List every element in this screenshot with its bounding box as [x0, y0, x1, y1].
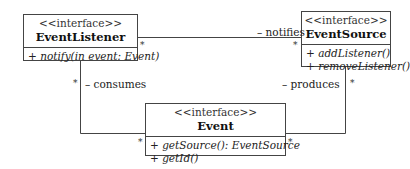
- role-label-produces: – produces: [282, 78, 340, 90]
- class-event: <<interface>> Event + getSource(): Event…: [145, 103, 286, 156]
- multiplicity-event-produces: *: [288, 137, 293, 147]
- multiplicity-event-consumes: *: [138, 137, 143, 147]
- multiplicity-source-notifies: *: [293, 40, 298, 50]
- multiplicity-listener-consumes: *: [73, 78, 78, 88]
- uml-diagram: <<interface>> EventListener + notify(in …: [0, 0, 410, 169]
- stereotype-label: <<interface>>: [26, 17, 135, 30]
- operation: + removeListener(): [306, 60, 386, 73]
- operations-list: + notify(in event: Event): [24, 48, 137, 65]
- operations-list: + getSource(): EventSource + getId(): [146, 137, 285, 167]
- produces-line: [285, 66, 346, 134]
- role-label-notifies: – notifies: [257, 26, 305, 38]
- class-name: EventSource: [304, 27, 388, 41]
- class-event-source: <<interface>> EventSource + addListener(…: [301, 11, 391, 67]
- role-label-consumes: – consumes: [85, 78, 146, 90]
- class-header: <<interface>> EventListener: [24, 15, 137, 48]
- stereotype-label: <<interface>>: [304, 14, 388, 27]
- class-header: <<interface>> Event: [146, 104, 285, 137]
- multiplicity-listener-notifies: *: [140, 40, 145, 50]
- class-header: <<interface>> EventSource: [302, 12, 390, 45]
- operation: + notify(in event: Event): [28, 50, 133, 63]
- operation: + addListener(): [306, 47, 386, 60]
- consumes-line: [81, 60, 146, 134]
- multiplicity-source-produces: *: [350, 78, 355, 88]
- class-name: EventListener: [26, 30, 135, 44]
- class-event-listener: <<interface>> EventListener + notify(in …: [23, 14, 138, 61]
- stereotype-label: <<interface>>: [148, 106, 283, 119]
- class-name: Event: [148, 119, 283, 133]
- operations-list: + addListener() + removeListener(): [302, 45, 390, 75]
- operation: + getSource(): EventSource: [150, 139, 281, 152]
- operation: + getId(): [150, 152, 281, 165]
